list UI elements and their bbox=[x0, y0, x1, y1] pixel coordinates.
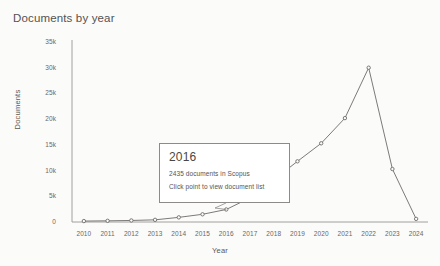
data-point-2011[interactable] bbox=[106, 219, 109, 222]
data-point-2012[interactable] bbox=[130, 219, 133, 222]
data-point-2014[interactable] bbox=[177, 216, 180, 219]
data-point-2020[interactable] bbox=[320, 142, 323, 145]
data-point-2015[interactable] bbox=[201, 213, 204, 216]
data-point-2019[interactable] bbox=[296, 160, 299, 163]
tooltip-year-label: 2016 bbox=[169, 150, 197, 164]
data-point-2023[interactable] bbox=[391, 167, 394, 170]
data-point-2022[interactable] bbox=[367, 66, 370, 69]
data-point-tooltip[interactable]: 2016 2435 documents in Scopus Click poin… bbox=[159, 143, 290, 203]
data-point-2013[interactable] bbox=[153, 218, 156, 221]
tooltip-hint-label[interactable]: Click point to view document list bbox=[169, 183, 264, 190]
data-point-2021[interactable] bbox=[343, 116, 346, 119]
data-point-2024[interactable] bbox=[414, 217, 417, 220]
tooltip-count-label: 2435 documents in Scopus bbox=[169, 170, 250, 177]
data-point-2010[interactable] bbox=[82, 219, 85, 222]
plot-area bbox=[0, 0, 440, 266]
documents-by-year-chart: Documents by year Documents Year 05k10k1… bbox=[0, 0, 440, 266]
